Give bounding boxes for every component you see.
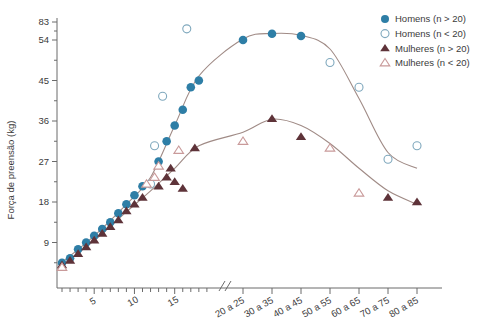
data-point — [183, 25, 191, 33]
data-point — [178, 105, 187, 114]
legend-label: Homens (n < 20) — [395, 28, 466, 39]
data-point — [190, 143, 200, 151]
y-tick-label: 36 — [38, 115, 49, 126]
women-fit-curve — [62, 119, 417, 265]
data-point — [296, 132, 306, 140]
y-tick-label: 45 — [38, 75, 49, 86]
x-band-label: 20 a 25 — [213, 294, 246, 319]
data-point — [268, 29, 277, 38]
y-axis-title-text: Força de preensão (kg) — [5, 121, 16, 220]
grip-strength-chart: 9182736455483 5101520 a 2530 a 3540 a 45… — [0, 0, 494, 329]
data-point — [239, 36, 248, 45]
data-point — [354, 189, 364, 196]
data-point — [413, 142, 421, 150]
x-tick-label: 5 — [87, 295, 97, 307]
y-tick-label: 9 — [44, 237, 49, 248]
x-tick-label: 10 — [125, 294, 140, 309]
men-fit-curve — [62, 33, 417, 262]
legend-marker — [380, 59, 390, 66]
legend-label: Mulheres (n > 20) — [395, 43, 470, 54]
data-point — [166, 164, 176, 172]
x-band-label: 80 a 85 — [387, 294, 420, 319]
chart-legend: Homens (n > 20)Homens (n < 20)Mulheres (… — [380, 13, 470, 68]
data-point — [384, 155, 392, 163]
y-axis-title: Força de preensão (kg) — [5, 121, 16, 220]
x-axis: 5101520 a 2530 a 3540 a 4550 a 5560 a 65… — [57, 281, 442, 320]
y-tick-label: 83 — [38, 16, 49, 27]
data-point — [161, 173, 171, 181]
legend-marker — [381, 30, 389, 38]
y-tick-label: 27 — [38, 156, 49, 167]
x-band-label: 50 a 55 — [300, 294, 333, 319]
x-band-label: 30 a 35 — [242, 294, 275, 319]
data-point — [297, 32, 306, 41]
data-point — [187, 83, 196, 92]
y-tick-label: 18 — [38, 196, 49, 207]
legend-label: Homens (n > 20) — [395, 13, 466, 24]
data-point — [170, 121, 179, 130]
data-point — [130, 191, 139, 200]
legend-marker — [380, 44, 390, 51]
data-point — [383, 193, 393, 201]
y-tick-label: 54 — [38, 34, 49, 45]
x-band-label: 40 a 45 — [271, 294, 304, 319]
data-point — [153, 182, 163, 190]
data-point — [195, 76, 204, 85]
data-point — [174, 146, 184, 153]
chart-svg: 9182736455483 5101520 a 2530 a 3540 a 45… — [0, 0, 494, 329]
data-points — [57, 25, 422, 271]
legend-label: Mulheres (n < 20) — [395, 57, 470, 68]
data-point — [325, 144, 335, 151]
data-point — [412, 197, 422, 205]
x-band-label: 70 a 75 — [358, 294, 391, 319]
data-point — [151, 142, 159, 150]
data-point — [159, 92, 167, 100]
data-point — [238, 137, 248, 144]
data-point — [170, 177, 180, 185]
legend-marker — [381, 15, 389, 23]
data-point — [355, 83, 363, 91]
x-tick-label: 15 — [166, 294, 181, 309]
fit-curves — [62, 33, 417, 265]
data-point — [267, 114, 277, 122]
y-axis: 9182736455483 — [38, 16, 57, 288]
x-band-label: 60 a 65 — [329, 294, 362, 319]
data-point — [162, 137, 171, 146]
data-point — [326, 59, 334, 67]
